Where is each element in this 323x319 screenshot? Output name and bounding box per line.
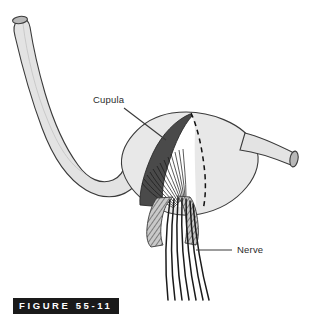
nerve-label-group: Nerve bbox=[196, 244, 263, 255]
anatomy-diagram-svg: Cupula Nerve bbox=[0, 0, 323, 319]
figure-container: Cupula Nerve FIGURE 55-11 bbox=[0, 0, 323, 319]
nerve-label: Nerve bbox=[237, 244, 263, 255]
figure-caption-banner: FIGURE 55-11 bbox=[13, 298, 119, 314]
figure-caption-text: FIGURE 55-11 bbox=[19, 301, 113, 311]
cupula-label: Cupula bbox=[93, 94, 125, 105]
